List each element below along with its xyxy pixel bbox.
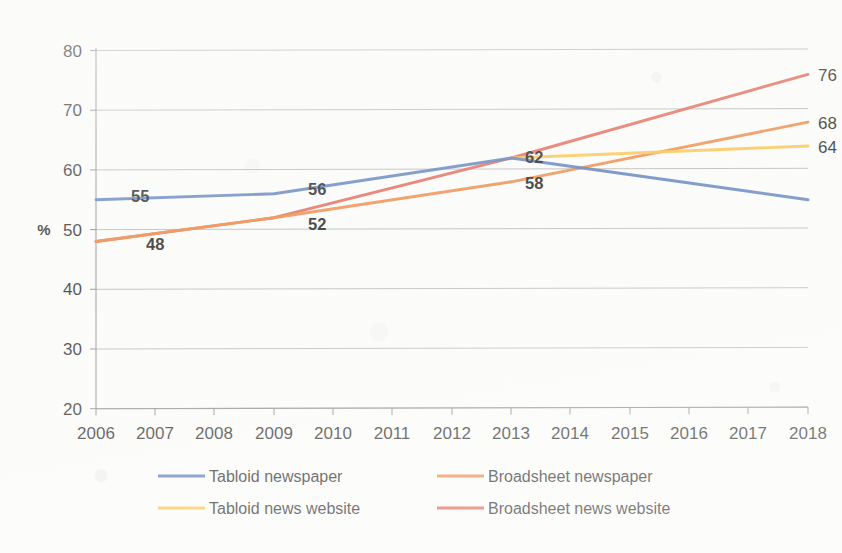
series-line-broadsheet-newspaper[interactable] [96,122,808,241]
end-label-tabloid-news-website: 64 [818,138,837,157]
end-label-broadsheet-news-website: 76 [818,66,837,85]
legend-label-broadsheet-newspaper: Broadsheet newspaper [488,468,653,485]
legend-item-tabloid-news-website[interactable]: Tabloid news website [158,500,360,517]
y-tick-label-80: 80 [63,42,82,61]
x-tick-label-2017: 2017 [729,424,767,443]
y-tick-label-50: 50 [63,221,82,240]
data-label-broadsheet-2009: 52 [308,215,326,233]
series-lines [96,74,808,241]
x-tick-label-2007: 2007 [136,424,174,443]
x-tick-label-2008: 2008 [195,424,233,443]
line-chart: 80 70 60 50 40 30 20 % 2006 2007 2008 20… [0,0,842,553]
legend-item-broadsheet-newspaper[interactable]: Broadsheet newspaper [437,468,653,485]
y-tick-label-30: 30 [63,340,82,359]
x-tick-label-2013: 2013 [492,424,530,443]
data-label-tabloid-newspaper-2006: 55 [131,187,149,205]
x-tick-label-2018: 2018 [789,424,827,443]
series-line-tabloid-newspaper[interactable] [96,158,808,200]
end-label-broadsheet-newspaper: 68 [818,114,837,133]
legend-label-tabloid-newspaper: Tabloid newspaper [209,468,343,485]
chart-legend: Tabloid newspaper Broadsheet newspaper T… [158,468,670,517]
legend-item-broadsheet-news-website[interactable]: Broadsheet news website [437,500,670,517]
data-label-tabloid-newspaper-2013: 62 [525,148,543,166]
gridline-30 [96,347,808,349]
y-axis-tick-labels: 80 70 60 50 40 30 20 [63,42,82,419]
chart-page: 80 70 60 50 40 30 20 % 2006 2007 2008 20… [0,0,842,553]
x-tick-label-2009: 2009 [255,424,293,443]
x-tick-label-2014: 2014 [551,424,589,443]
gridline-80 [96,49,808,51]
y-tick-label-20: 20 [63,400,82,419]
gridline-60 [96,168,808,170]
gridline-70 [96,109,808,111]
x-tick-label-2011: 2011 [374,424,411,443]
data-label-broadsheet-2013: 58 [525,174,543,192]
x-axis-tick-labels: 2006 2007 2008 2009 2010 2011 2012 2013 … [77,424,827,443]
legend-label-broadsheet-news-website: Broadsheet news website [488,500,670,517]
legend-item-tabloid-newspaper[interactable]: Tabloid newspaper [158,468,343,485]
data-label-broadsheet-2006: 48 [146,235,164,253]
gridline-40 [96,288,808,290]
legend-label-tabloid-news-website: Tabloid news website [209,500,360,517]
end-labels: 76 68 64 [818,66,837,157]
x-tick-label-2015: 2015 [611,424,649,443]
x-tick-label-2016: 2016 [670,424,708,443]
gridlines [96,49,808,409]
y-tick-label-40: 40 [63,280,82,299]
y-tick-label-60: 60 [63,161,82,180]
x-tick-label-2010: 2010 [314,424,352,443]
data-label-tabloid-newspaper-2009: 56 [308,180,326,198]
series-line-tabloid-news-website[interactable] [511,146,808,158]
y-tick-label-70: 70 [63,101,82,120]
y-axis-title: % [37,221,50,238]
x-tick-label-2006: 2006 [77,424,115,443]
axes [90,48,808,416]
x-tick-label-2012: 2012 [433,424,471,443]
series-line-broadsheet-news-website[interactable] [96,74,808,241]
